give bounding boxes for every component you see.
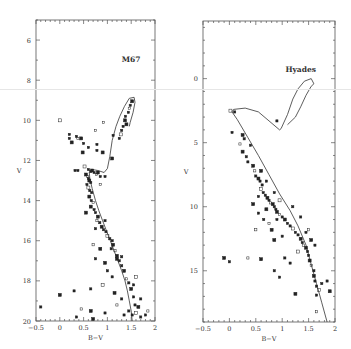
star-point bbox=[84, 211, 87, 214]
star-point bbox=[264, 194, 266, 196]
star-point bbox=[257, 195, 259, 197]
star-point bbox=[128, 310, 130, 312]
star-point bbox=[301, 241, 303, 243]
y-axis-label: V bbox=[183, 168, 189, 176]
star-point bbox=[223, 256, 226, 259]
x-tick-label: 0 bbox=[227, 325, 231, 333]
star-point bbox=[127, 111, 129, 113]
star-point bbox=[94, 258, 96, 260]
star-point bbox=[276, 120, 278, 122]
star-point bbox=[294, 292, 297, 295]
star-point bbox=[266, 196, 269, 199]
star-point bbox=[271, 203, 274, 206]
y-tick-label: 5 bbox=[194, 139, 198, 147]
star-point bbox=[94, 129, 96, 131]
y-tick-label: 10 bbox=[190, 203, 198, 211]
star-point bbox=[273, 270, 275, 272]
star-point bbox=[104, 312, 106, 314]
star-point bbox=[118, 137, 120, 139]
star-point bbox=[125, 123, 128, 126]
star-point bbox=[123, 314, 125, 316]
star-point bbox=[308, 259, 311, 262]
star-point bbox=[273, 206, 275, 208]
star-point bbox=[89, 205, 92, 208]
star-point bbox=[276, 218, 278, 220]
star-point bbox=[124, 115, 126, 117]
star-point bbox=[243, 138, 245, 140]
star-point bbox=[281, 235, 283, 237]
star-point bbox=[140, 298, 142, 300]
star-point bbox=[125, 278, 127, 280]
star-point bbox=[58, 119, 61, 122]
star-point bbox=[92, 317, 95, 320]
star-point bbox=[73, 290, 75, 292]
star-point bbox=[121, 256, 123, 258]
star-point bbox=[128, 107, 130, 109]
star-point bbox=[90, 288, 92, 290]
star-point bbox=[259, 180, 261, 182]
cmd-plots: −0.500.511.5268101214161820B−VVM67 −0.50… bbox=[0, 0, 351, 349]
star-point bbox=[83, 142, 85, 144]
x-tick-label: −0.5 bbox=[195, 325, 211, 333]
star-point bbox=[310, 239, 313, 242]
star-point bbox=[99, 247, 102, 250]
star-point bbox=[306, 250, 308, 252]
cluster-label: Hyades bbox=[285, 65, 316, 74]
plot-area bbox=[40, 97, 149, 321]
cluster-label: M67 bbox=[122, 55, 141, 64]
star-point bbox=[116, 304, 118, 306]
star-point bbox=[89, 309, 92, 312]
star-point bbox=[229, 109, 232, 112]
star-point bbox=[77, 169, 79, 171]
star-point bbox=[131, 314, 133, 316]
star-point bbox=[241, 150, 244, 153]
star-point bbox=[104, 175, 106, 177]
star-point bbox=[132, 284, 134, 286]
star-point bbox=[105, 231, 107, 233]
star-point bbox=[254, 170, 256, 172]
y-tick-label: 15 bbox=[190, 267, 198, 275]
star-point bbox=[130, 287, 133, 290]
star-point bbox=[286, 222, 288, 224]
star-point bbox=[87, 146, 89, 148]
star-point bbox=[239, 143, 241, 145]
star-point bbox=[106, 270, 108, 272]
star-point bbox=[268, 199, 270, 201]
star-point bbox=[137, 305, 140, 308]
star-point bbox=[99, 222, 101, 224]
star-point bbox=[74, 169, 76, 171]
star-point bbox=[265, 180, 267, 182]
x-axis-label: B−V bbox=[88, 334, 103, 342]
star-point bbox=[294, 231, 296, 233]
star-point bbox=[115, 254, 118, 257]
star-point bbox=[284, 257, 286, 259]
star-point bbox=[96, 149, 98, 151]
star-point bbox=[93, 171, 95, 173]
star-point bbox=[124, 119, 127, 122]
isochrone-curve bbox=[232, 79, 327, 322]
x-tick-label: 0.5 bbox=[251, 325, 261, 333]
star-point bbox=[91, 191, 93, 193]
star-point bbox=[111, 240, 113, 242]
star-point bbox=[132, 296, 134, 298]
star-point bbox=[111, 276, 113, 278]
star-point bbox=[92, 244, 94, 246]
star-point bbox=[314, 244, 316, 246]
star-point bbox=[94, 228, 96, 230]
star-point bbox=[96, 171, 99, 174]
star-point bbox=[93, 209, 95, 211]
star-point bbox=[273, 192, 275, 194]
y-axis-label: V bbox=[16, 167, 22, 175]
y-tick-label: 10 bbox=[23, 117, 31, 125]
star-point bbox=[112, 134, 114, 136]
star-point bbox=[140, 316, 142, 318]
star-point bbox=[289, 262, 291, 264]
star-point bbox=[257, 212, 259, 214]
x-tick-label: 2 bbox=[153, 324, 157, 332]
star-point bbox=[88, 195, 91, 198]
y-tick-label: 16 bbox=[23, 237, 31, 245]
star-point bbox=[231, 131, 233, 133]
star-point bbox=[96, 220, 98, 222]
star-point bbox=[302, 244, 304, 246]
star-point bbox=[90, 181, 92, 183]
